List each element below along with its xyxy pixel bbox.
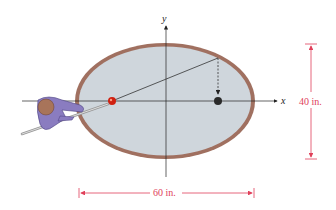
cue-ball-highlight bbox=[110, 99, 112, 101]
width-dimension: 60 in. bbox=[79, 187, 254, 198]
width-dimension-label: 60 in. bbox=[153, 187, 176, 198]
x-axis-label: x bbox=[280, 95, 286, 106]
height-dimension: 40 in. bbox=[299, 44, 322, 159]
player-head bbox=[38, 99, 54, 115]
target-ball bbox=[214, 97, 222, 105]
height-dimension-label: 40 in. bbox=[299, 96, 322, 107]
player-arm bbox=[58, 116, 74, 121]
y-axis-label: y bbox=[161, 13, 167, 24]
billiard-ellipse-diagram: x y 40 in. 60 in. bbox=[0, 0, 336, 210]
